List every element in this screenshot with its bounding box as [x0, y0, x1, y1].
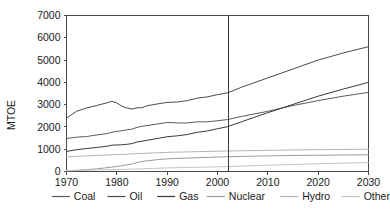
y-axis-title-group: MTOE — [5, 100, 17, 130]
series-line-gas — [67, 82, 369, 151]
chart-canvas: MTOE 01000200030004000500060007000 19701… — [0, 0, 390, 218]
x-tick-label: 1980 — [105, 176, 129, 188]
x-tick-label: 1970 — [55, 176, 79, 188]
x-axis-tick-marks — [67, 172, 369, 176]
series-line-nuclear — [67, 155, 369, 171]
legend-label-gas: Gas — [179, 190, 198, 202]
y-tick-label: 2000 — [37, 121, 61, 133]
x-tick-label: 2000 — [206, 176, 230, 188]
legend-label-nuclear: Nuclear — [229, 190, 266, 202]
y-tick-label: 6000 — [37, 31, 61, 43]
series-line-coal — [67, 92, 369, 138]
y-tick-label: 1000 — [37, 143, 61, 155]
x-tick-label: 2030 — [357, 176, 381, 188]
y-tick-label: 3000 — [37, 98, 61, 110]
series-line-oil — [67, 47, 369, 118]
y-axis-title: MTOE — [5, 100, 17, 130]
legend-label-hydro: Hydro — [302, 190, 330, 202]
data-series-group — [67, 47, 369, 171]
axis-frame — [67, 16, 369, 172]
chart-legend: CoalOilGasNuclearHydroOther — [52, 190, 390, 202]
x-tick-label: 2020 — [306, 176, 330, 188]
y-tick-label: 7000 — [37, 9, 61, 21]
y-tick-label: 5000 — [37, 54, 61, 66]
x-tick-label: 1990 — [155, 176, 179, 188]
legend-label-coal: Coal — [74, 190, 96, 202]
plot-frame — [67, 16, 369, 172]
legend-label-other: Other — [364, 190, 390, 202]
energy-outlook-chart: MTOE 01000200030004000500060007000 19701… — [0, 0, 390, 218]
x-tick-label: 2010 — [256, 176, 280, 188]
y-axis-tick-labels: 01000200030004000500060007000 — [37, 9, 61, 177]
y-tick-label: 4000 — [37, 76, 61, 88]
legend-label-oil: Oil — [129, 190, 142, 202]
x-axis-tick-labels: 1970198019902000201020202030 — [55, 176, 381, 188]
